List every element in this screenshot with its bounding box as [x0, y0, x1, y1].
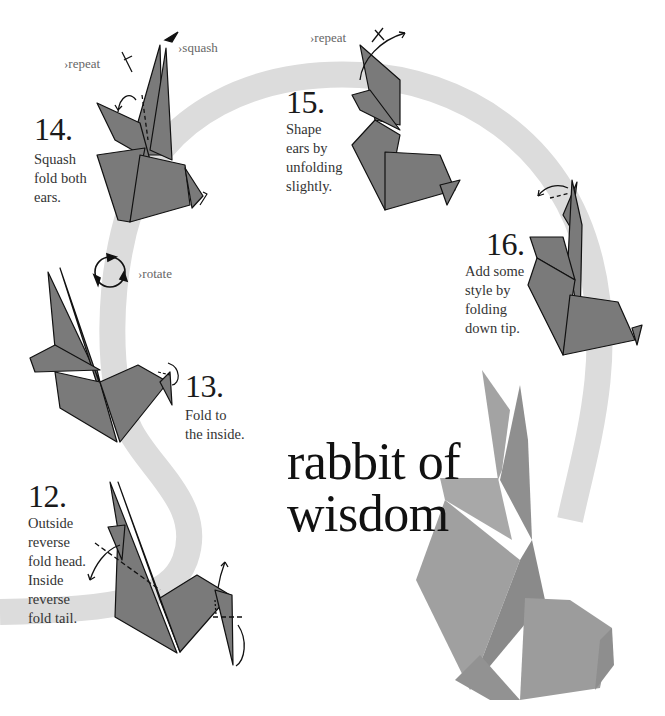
step-13-line: Fold to	[185, 406, 245, 425]
step-12-line: Outside	[28, 514, 86, 533]
step-12-line: fold tail.	[28, 609, 86, 628]
step-13-description: Fold to the inside.	[185, 406, 245, 444]
title-line-1: rabbit of	[287, 436, 460, 488]
step-14-line: ears.	[34, 188, 87, 207]
step-15-number: 15.	[286, 86, 325, 118]
step-15-line: unfolding	[286, 158, 342, 177]
step-12-line: fold head.	[28, 552, 86, 571]
step-16-line: Add some	[465, 262, 524, 281]
step-15-line: ears by	[286, 139, 342, 158]
diagram-canvas	[0, 0, 665, 716]
step-14-line: fold both	[34, 169, 87, 188]
step-14-number: 14.	[34, 113, 73, 145]
step-12-description: Outside reverse fold head. Inside revers…	[28, 514, 86, 628]
step-13-line: the inside.	[185, 425, 245, 444]
step-16-line: folding	[465, 300, 524, 319]
rotate-note: ›rotate	[138, 266, 172, 282]
step-16-line: down tip.	[465, 319, 524, 338]
step-14-description: Squash fold both ears.	[34, 150, 87, 207]
origami-instruction-page: 14. Squash fold both ears. ›repeat ›squa…	[0, 0, 665, 716]
step-13-number: 13.	[185, 370, 224, 402]
step-12-line: reverse	[28, 533, 86, 552]
step-15-line: Shape	[286, 120, 342, 139]
step-12-line: reverse	[28, 590, 86, 609]
page-title: rabbit of wisdom	[287, 436, 460, 540]
step-12-line: Inside	[28, 571, 86, 590]
step-16-description: Add some style by folding down tip.	[465, 262, 524, 338]
step-12-number: 12.	[28, 480, 67, 512]
step-15-description: Shape ears by unfolding slightly.	[286, 120, 342, 196]
step-14-line: Squash	[34, 150, 87, 169]
step-16-line: style by	[465, 281, 524, 300]
step-14-repeat-note: ›repeat	[64, 56, 100, 72]
step-15-repeat-note: ›repeat	[310, 30, 346, 46]
step-14-squash-note: ›squash	[178, 40, 218, 56]
step-16-number: 16.	[486, 228, 525, 260]
title-line-2: wisdom	[287, 488, 460, 540]
step-15-line: slightly.	[286, 177, 342, 196]
